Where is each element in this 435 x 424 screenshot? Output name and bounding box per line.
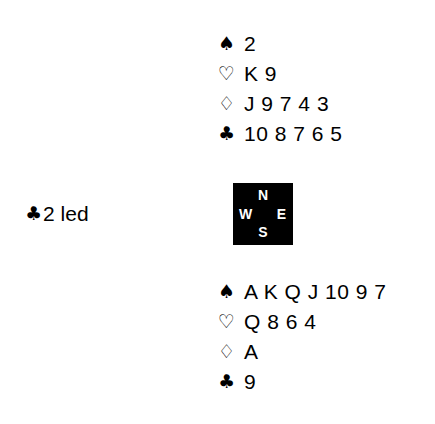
north-hearts-row: ♡ K 9 bbox=[218, 58, 342, 88]
diamond-icon: ♢ bbox=[218, 94, 244, 113]
club-icon: ♣ bbox=[218, 124, 244, 143]
south-hearts-row: ♡ Q 8 6 4 bbox=[218, 306, 386, 336]
club-icon: ♣ bbox=[218, 372, 244, 391]
club-icon: ♣ bbox=[25, 204, 42, 223]
diamond-icon: ♢ bbox=[218, 342, 244, 361]
south-clubs-cards: 9 bbox=[244, 371, 256, 392]
compass-south-label: S bbox=[258, 225, 267, 239]
north-spades-cards: 2 bbox=[244, 33, 256, 54]
spade-icon: ♠ bbox=[218, 34, 244, 53]
south-clubs-row: ♣ 9 bbox=[218, 366, 386, 396]
compass-east-label: E bbox=[277, 207, 286, 221]
opening-lead-note: ♣ 2 led bbox=[25, 203, 89, 224]
south-diamonds-row: ♢ A bbox=[218, 336, 386, 366]
north-spades-row: ♠ 2 bbox=[218, 28, 342, 58]
south-spades-row: ♠ A K Q J 10 9 7 bbox=[218, 276, 386, 306]
heart-icon: ♡ bbox=[218, 64, 244, 83]
south-diamonds-cards: A bbox=[244, 341, 259, 362]
spade-icon: ♠ bbox=[218, 282, 244, 301]
opening-lead-text: 2 led bbox=[43, 203, 89, 224]
north-clubs-row: ♣ 10 8 7 6 5 bbox=[218, 118, 342, 148]
bridge-deal-diagram: ♠ 2 ♡ K 9 ♢ J 9 7 4 3 ♣ 10 8 7 6 5 N W E… bbox=[0, 0, 435, 424]
compass-box: N W E S bbox=[233, 183, 293, 245]
north-diamonds-row: ♢ J 9 7 4 3 bbox=[218, 88, 342, 118]
heart-icon: ♡ bbox=[218, 312, 244, 331]
north-clubs-cards: 10 8 7 6 5 bbox=[244, 123, 342, 144]
south-hearts-cards: Q 8 6 4 bbox=[244, 311, 316, 332]
south-spades-cards: A K Q J 10 9 7 bbox=[244, 281, 386, 302]
south-hand: ♠ A K Q J 10 9 7 ♡ Q 8 6 4 ♢ A ♣ 9 bbox=[218, 276, 386, 396]
compass-north-label: N bbox=[258, 188, 268, 202]
compass-west-label: W bbox=[239, 207, 252, 221]
north-diamonds-cards: J 9 7 4 3 bbox=[244, 93, 329, 114]
north-hearts-cards: K 9 bbox=[244, 63, 277, 84]
north-hand: ♠ 2 ♡ K 9 ♢ J 9 7 4 3 ♣ 10 8 7 6 5 bbox=[218, 28, 342, 148]
